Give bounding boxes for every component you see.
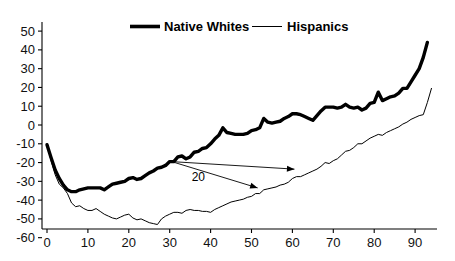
y-tick-label: 0 xyxy=(28,118,35,133)
annotation-label: 20 xyxy=(192,170,206,184)
y-tick-label: -20 xyxy=(16,155,35,170)
x-tick-label: 30 xyxy=(162,235,176,250)
x-tick-label: 50 xyxy=(244,235,258,250)
y-tick-label: -50 xyxy=(16,211,35,226)
y-tick-label: -60 xyxy=(16,230,35,245)
x-tick-label: 70 xyxy=(326,235,340,250)
x-tick-label: 0 xyxy=(43,235,50,250)
x-tick-label: 10 xyxy=(81,235,95,250)
x-tick-label: 90 xyxy=(408,235,422,250)
legend-label-native-whites: Native Whites xyxy=(164,19,249,34)
y-tick-label: 40 xyxy=(21,42,35,57)
chart-background xyxy=(0,0,455,261)
y-tick-label: 10 xyxy=(21,99,35,114)
y-tick-label: 30 xyxy=(21,61,35,76)
y-tick-label: 50 xyxy=(21,24,35,39)
x-tick-label: 60 xyxy=(285,235,299,250)
y-tick-label: -30 xyxy=(16,174,35,189)
x-tick-label: 80 xyxy=(367,235,381,250)
legend-label-hispanics: Hispanics xyxy=(287,19,348,34)
y-tick-label: -40 xyxy=(16,193,35,208)
line-chart: -60-50-40-30-20-1001020304050 0102030405… xyxy=(0,0,455,261)
x-tick-label: 20 xyxy=(122,235,136,250)
y-tick-label: 20 xyxy=(21,80,35,95)
chart-container: -60-50-40-30-20-1001020304050 0102030405… xyxy=(0,0,455,261)
y-tick-label: -10 xyxy=(16,136,35,151)
x-tick-label: 40 xyxy=(203,235,217,250)
